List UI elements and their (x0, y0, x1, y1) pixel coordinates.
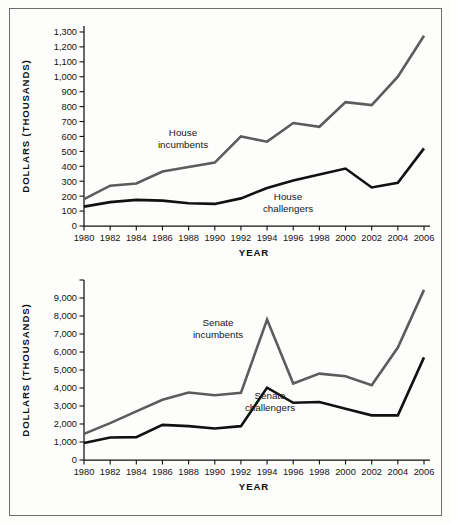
x-axis-title: YEAR (239, 247, 269, 258)
annotation-senate-challengers: Senatechallengers (245, 390, 295, 413)
x-tick-label: 1998 (309, 467, 330, 477)
annotation-line-2: incumbents (158, 139, 208, 150)
x-tick-label: 1996 (283, 467, 304, 477)
y-axis-title: DOLLARS (THOUSANDS) (20, 59, 31, 192)
house-chart-panel: 01002003004005006007008009001,0001,1001,… (0, 4, 451, 266)
y-tick-label: 400 (61, 162, 77, 172)
x-tick-label: 1980 (74, 233, 95, 243)
senate-chart-panel: 01,0002,0003,0004,0005,0006,0007,0008,00… (0, 264, 451, 525)
annotation-line-1: Senate (202, 317, 234, 328)
figure-container: 01002003004005006007008009001,0001,1001,… (0, 0, 451, 525)
y-tick-label: 100 (61, 206, 77, 216)
series-line-house-incumbents (84, 36, 424, 199)
x-tick-label: 1982 (100, 233, 121, 243)
x-tick-label: 1982 (100, 467, 121, 477)
x-tick-label: 1990 (204, 233, 225, 243)
y-tick-label: 800 (61, 102, 77, 112)
x-tick-label: 2004 (388, 467, 409, 477)
annotation-line-1: House (274, 191, 303, 202)
x-tick-label: 2002 (361, 233, 382, 243)
y-tick-label: 3,000 (54, 401, 77, 411)
y-tick-label: 900 (61, 87, 77, 97)
annotation-line-2: incumbents (193, 329, 243, 340)
y-tick-label: 9,000 (54, 293, 77, 303)
y-tick-label: 500 (61, 147, 77, 157)
x-tick-label: 1988 (178, 233, 199, 243)
x-axis-title: YEAR (239, 481, 269, 492)
x-tick-label: 2000 (335, 467, 356, 477)
x-tick-label: 1994 (257, 233, 278, 243)
x-tick-label: 1986 (152, 467, 173, 477)
y-tick-label: 1,200 (54, 42, 77, 52)
senate-chart-svg: 01,0002,0003,0004,0005,0006,0007,0008,00… (0, 264, 451, 525)
x-tick-label: 1988 (178, 467, 199, 477)
y-tick-label: 4,000 (54, 383, 77, 393)
y-tick-label: 0 (72, 455, 77, 465)
x-tick-label: 1984 (126, 467, 147, 477)
annotation-line-1: Senate (254, 390, 286, 401)
y-tick-label: 200 (61, 192, 77, 202)
x-tick-label: 1992 (231, 233, 252, 243)
house-chart-svg: 01002003004005006007008009001,0001,1001,… (0, 4, 451, 266)
y-tick-label: 2,000 (54, 419, 77, 429)
y-tick-label: 700 (61, 117, 77, 127)
annotation-line-1: House (169, 127, 198, 138)
x-tick-label: 1994 (257, 467, 278, 477)
x-tick-label: 1992 (231, 467, 252, 477)
x-tick-label: 2006 (414, 467, 435, 477)
x-tick-label: 1990 (204, 467, 225, 477)
annotation-line-2: challengers (245, 402, 295, 413)
y-tick-label: 300 (61, 177, 77, 187)
y-tick-label: 8,000 (54, 311, 77, 321)
y-tick-label: 1,300 (54, 27, 77, 37)
annotation-house-incumbents: Houseincumbents (158, 127, 208, 150)
y-tick-label: 6,000 (54, 347, 77, 357)
annotation-line-2: challengers (263, 203, 313, 214)
y-tick-label: 1,000 (54, 437, 77, 447)
x-tick-label: 1986 (152, 233, 173, 243)
x-tick-label: 2004 (388, 233, 409, 243)
annotation-senate-incumbents: Senateincumbents (193, 317, 243, 340)
annotation-house-challengers: Housechallengers (263, 191, 313, 214)
x-tick-label: 1996 (283, 233, 304, 243)
x-tick-label: 1998 (309, 233, 330, 243)
y-tick-label: 0 (72, 221, 77, 231)
series-line-house-challengers (84, 148, 424, 206)
y-tick-label: 600 (61, 132, 77, 142)
y-axis-title: DOLLARS (THOUSANDS) (20, 303, 31, 436)
x-tick-label: 1980 (74, 467, 95, 477)
y-tick-label: 7,000 (54, 329, 77, 339)
y-tick-label: 1,100 (54, 57, 77, 67)
x-tick-label: 1984 (126, 233, 147, 243)
x-tick-label: 2002 (361, 467, 382, 477)
x-tick-label: 2006 (414, 233, 435, 243)
y-tick-label: 1,000 (54, 72, 77, 82)
y-tick-label: 5,000 (54, 365, 77, 375)
x-tick-label: 2000 (335, 233, 356, 243)
